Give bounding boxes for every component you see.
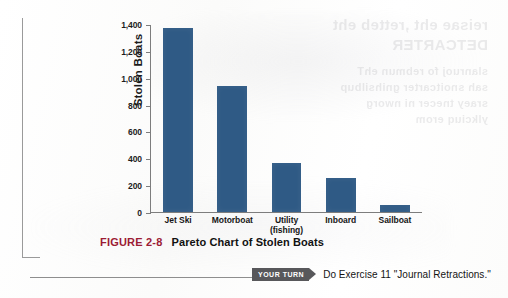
bar: [326, 178, 356, 212]
y-tick-label: 800: [102, 101, 142, 111]
bar-slot: [314, 25, 368, 212]
x-tick-label: Jet Ski: [151, 215, 205, 235]
your-turn-leader-rule: [30, 277, 253, 278]
bar-slot: [205, 25, 259, 212]
x-tick-label: Inboard: [314, 215, 368, 235]
plot-area: 02004006008001,0001,2001,400 Jet SkiMoto…: [150, 25, 422, 213]
figure-caption: FIGURE 2-8Pareto Chart of Stolen Boats: [100, 236, 324, 248]
y-tick-label: 1,000: [102, 74, 142, 84]
bar: [380, 205, 410, 212]
x-tick-label: Motorboat: [205, 215, 259, 235]
your-turn-badge: YOUR TURN: [252, 268, 309, 281]
figure-title: Pareto Chart of Stolen Boats: [172, 236, 325, 248]
x-axis-labels: Jet SkiMotorboatUtility (fishing)Inboard…: [151, 215, 422, 235]
y-tick-label: 600: [102, 127, 142, 137]
bar-slot: [368, 25, 422, 212]
x-axis-line: [150, 212, 422, 213]
bar-chart: Stolen Boats 02004006008001,0001,2001,40…: [96, 8, 426, 230]
y-tick-label: 1,400: [102, 20, 142, 30]
bar-slot: [259, 25, 313, 212]
y-tick-label: 1,200: [102, 47, 142, 57]
x-tick-label: Sailboat: [368, 215, 422, 235]
your-turn-callout: YOUR TURN Do Exercise 11 "Journal Retrac…: [252, 268, 491, 281]
bar-slot: [151, 25, 205, 212]
y-tick-label: 400: [102, 154, 142, 164]
page-border-horizontal: [22, 257, 40, 258]
bar: [163, 28, 193, 212]
your-turn-instruction: Do Exercise 11 "Journal Retractions.": [323, 269, 491, 280]
bar-series: [151, 25, 422, 212]
y-tick-mark: [146, 213, 151, 214]
page-border-vertical: [22, 18, 23, 258]
bar: [272, 163, 302, 212]
y-tick-label: 0: [102, 208, 142, 218]
y-tick-label: 200: [102, 181, 142, 191]
figure-number: FIGURE 2-8: [100, 236, 163, 248]
x-tick-label: Utility (fishing): [259, 215, 313, 235]
bar: [217, 86, 247, 212]
